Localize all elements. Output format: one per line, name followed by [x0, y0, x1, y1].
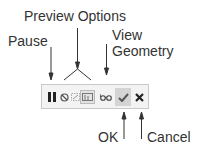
view-geometry-button[interactable]	[100, 90, 112, 104]
cancel-button[interactable]	[134, 90, 145, 104]
ok-button[interactable]	[115, 88, 131, 106]
pause-icon	[48, 92, 56, 102]
preview-option-3-button[interactable]	[80, 90, 95, 104]
pause-button[interactable]	[47, 90, 57, 104]
checkmark-icon	[118, 93, 129, 102]
glasses-icon	[100, 93, 112, 101]
x-icon	[135, 93, 144, 102]
no-preview-icon	[60, 93, 69, 102]
full-preview-icon	[82, 92, 93, 102]
preview-toolbar	[41, 84, 149, 109]
partial-preview-icon	[71, 92, 80, 102]
preview-option-1-button[interactable]	[59, 90, 69, 104]
callout-arrows	[0, 0, 201, 151]
preview-option-2-button[interactable]	[70, 90, 80, 104]
